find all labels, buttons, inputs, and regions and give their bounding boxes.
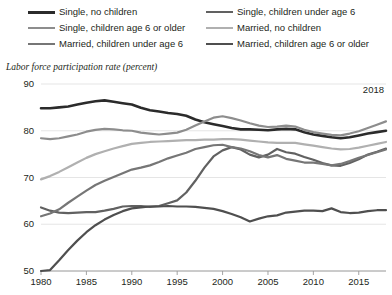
x-axis-tick-label: 2015 bbox=[339, 276, 379, 287]
legend-swatch-icon bbox=[206, 43, 233, 46]
legend-swatch-icon bbox=[28, 43, 55, 46]
legend-item-single-children-under-6: Single, children under age 6 bbox=[206, 4, 369, 20]
y-axis-tick-label: 80 bbox=[10, 125, 34, 136]
legend-column-left: Single, no children Single, children age… bbox=[28, 4, 185, 52]
x-axis-tick-label: 1995 bbox=[157, 276, 197, 287]
chart-legend: Single, no children Single, children age… bbox=[0, 4, 392, 52]
legend-swatch-icon bbox=[206, 27, 233, 30]
legend-swatch-icon bbox=[206, 11, 233, 14]
legend-label: Single, children under age 6 bbox=[237, 7, 355, 17]
gridlines bbox=[41, 84, 386, 271]
x-axis-tick-label: 1985 bbox=[66, 276, 106, 287]
series-line bbox=[41, 116, 386, 139]
x-axis-tick-label: 1980 bbox=[21, 276, 61, 287]
chart-figure: Single, no children Single, children age… bbox=[0, 0, 392, 295]
legend-label: Single, no children bbox=[59, 7, 137, 17]
legend-swatch-icon bbox=[28, 11, 55, 14]
y-axis-tick-label: 50 bbox=[10, 265, 34, 276]
legend-label: Married, children under age 6 bbox=[59, 39, 183, 49]
legend-column-right: Single, children under age 6 Married, no… bbox=[206, 4, 369, 52]
legend-swatch-icon bbox=[28, 27, 55, 30]
y-axis-tick-label: 70 bbox=[10, 172, 34, 183]
legend-label: Single, children age 6 or older bbox=[59, 23, 185, 33]
plot-svg bbox=[0, 78, 392, 278]
legend-item-single-no-children: Single, no children bbox=[28, 4, 185, 20]
legend-item-single-children-6-or-older: Single, children age 6 or older bbox=[28, 20, 185, 36]
legend-item-married-children-6-or-older: Married, children age 6 or older bbox=[206, 36, 369, 52]
y-axis-tick-label: 90 bbox=[10, 78, 34, 89]
x-axis-tick-label: 2000 bbox=[203, 276, 243, 287]
axis-lines bbox=[41, 271, 386, 275]
x-axis-tick-label: 1990 bbox=[112, 276, 152, 287]
legend-item-married-children-under-6: Married, children under age 6 bbox=[28, 36, 185, 52]
y-axis-tick-label: 60 bbox=[10, 218, 34, 229]
legend-item-married-no-children: Married, no children bbox=[206, 20, 369, 36]
series-line bbox=[41, 100, 386, 138]
chart-subtitle: Labor force participation rate (percent) bbox=[6, 62, 157, 72]
series-lines bbox=[41, 100, 386, 271]
series-line bbox=[41, 206, 386, 271]
legend-label: Married, children age 6 or older bbox=[237, 39, 369, 49]
x-axis-tick-label: 2005 bbox=[248, 276, 288, 287]
series-line bbox=[41, 147, 386, 213]
plot-area bbox=[0, 78, 392, 278]
x-axis-tick-label: 2010 bbox=[293, 276, 333, 287]
legend-label: Married, no children bbox=[237, 23, 321, 33]
